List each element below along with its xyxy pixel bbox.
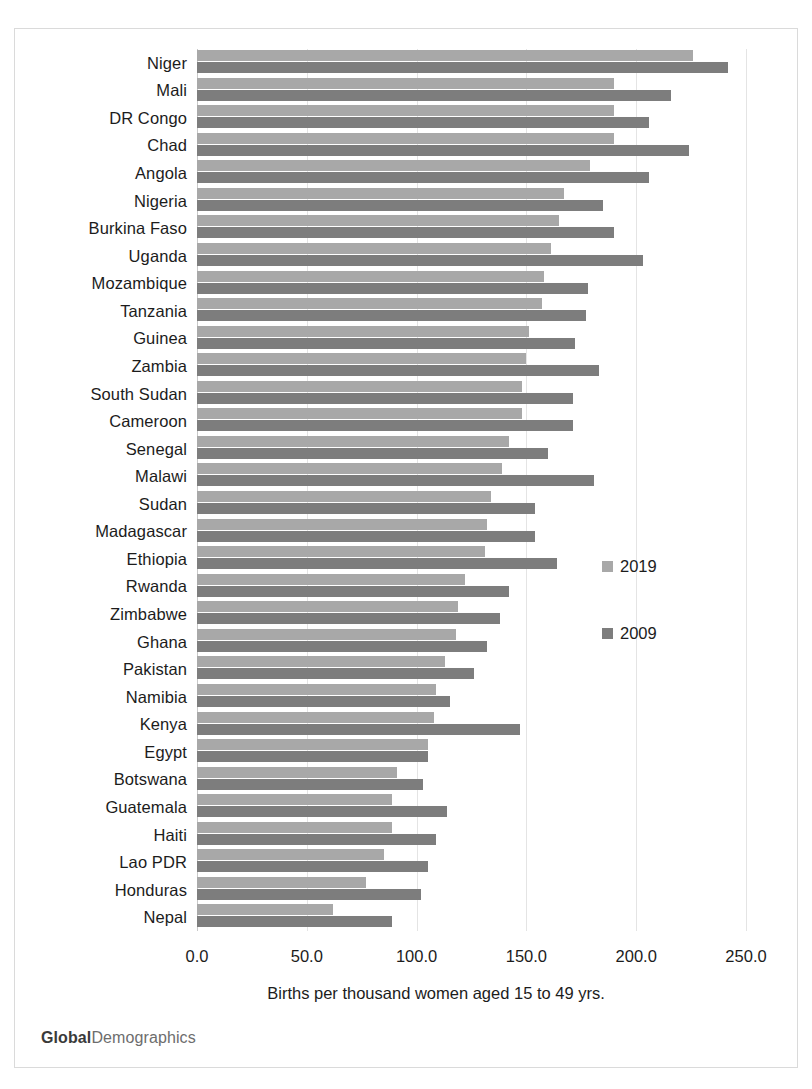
bar-2019 bbox=[197, 105, 614, 116]
brand-light-text: Demographics bbox=[91, 1029, 195, 1046]
bar-row: DR Congo bbox=[197, 104, 746, 132]
category-label: Botswana bbox=[114, 770, 187, 789]
category-label: Zambia bbox=[131, 356, 187, 375]
category-label: Egypt bbox=[144, 742, 187, 761]
bar-2009 bbox=[197, 558, 557, 569]
x-tick-label: 100.0 bbox=[396, 947, 437, 966]
bar-row: Tanzania bbox=[197, 297, 746, 325]
bar-2009 bbox=[197, 889, 421, 900]
brand-watermark: GlobalDemographics bbox=[41, 1029, 196, 1047]
bar-row: Lao PDR bbox=[197, 848, 746, 876]
bar-row: Zambia bbox=[197, 352, 746, 380]
bar-2019 bbox=[197, 243, 551, 254]
bar-2019 bbox=[197, 271, 544, 282]
chart-legend: 2019 2009 bbox=[602, 556, 732, 690]
bar-2009 bbox=[197, 62, 728, 73]
category-label: Ethiopia bbox=[127, 549, 187, 568]
bar-row: Uganda bbox=[197, 242, 746, 270]
bar-2019 bbox=[197, 298, 542, 309]
legend-label-2009: 2009 bbox=[620, 624, 657, 643]
bar-2009 bbox=[197, 172, 649, 183]
category-label: Sudan bbox=[139, 494, 187, 513]
bar-row: Burkina Faso bbox=[197, 214, 746, 242]
bar-2019 bbox=[197, 491, 491, 502]
bar-2009 bbox=[197, 283, 588, 294]
category-label: Niger bbox=[147, 53, 187, 72]
category-label: Chad bbox=[147, 136, 187, 155]
category-label: Pakistan bbox=[123, 660, 187, 679]
bar-2009 bbox=[197, 724, 520, 735]
bar-2019 bbox=[197, 188, 564, 199]
category-label: Uganda bbox=[129, 246, 187, 265]
x-tick-label: 150.0 bbox=[506, 947, 547, 966]
bar-2009 bbox=[197, 641, 487, 652]
category-label: Senegal bbox=[126, 439, 187, 458]
category-label: Malawi bbox=[135, 467, 187, 486]
bar-2009 bbox=[197, 861, 428, 872]
bar-2019 bbox=[197, 684, 436, 695]
plot-area: NigerMaliDR CongoChadAngolaNigeriaBurkin… bbox=[197, 49, 746, 931]
bar-2009 bbox=[197, 503, 535, 514]
bar-2019 bbox=[197, 353, 526, 364]
bar-2009 bbox=[197, 834, 436, 845]
bar-2009 bbox=[197, 200, 603, 211]
bar-2009 bbox=[197, 117, 649, 128]
bar-2019 bbox=[197, 574, 465, 585]
legend-swatch-2009 bbox=[602, 628, 613, 639]
bar-2019 bbox=[197, 381, 522, 392]
category-label: Nigeria bbox=[134, 191, 187, 210]
bar-2019 bbox=[197, 794, 392, 805]
category-label: Mozambique bbox=[92, 274, 187, 293]
legend-entry-2009: 2009 bbox=[602, 623, 732, 643]
category-label: Cameroon bbox=[109, 412, 187, 431]
bar-2009 bbox=[197, 255, 643, 266]
bar-2019 bbox=[197, 78, 614, 89]
bar-row: Sudan bbox=[197, 490, 746, 518]
bar-2019 bbox=[197, 629, 456, 640]
bar-row: Angola bbox=[197, 159, 746, 187]
category-label: Namibia bbox=[126, 687, 187, 706]
bar-2009 bbox=[197, 338, 575, 349]
bar-row: Senegal bbox=[197, 435, 746, 463]
category-label: Madagascar bbox=[95, 522, 187, 541]
bar-2009 bbox=[197, 586, 509, 597]
category-label: Kenya bbox=[140, 715, 187, 734]
bar-2019 bbox=[197, 133, 614, 144]
bar-row: Kenya bbox=[197, 711, 746, 739]
bar-2019 bbox=[197, 904, 333, 915]
bar-2019 bbox=[197, 519, 487, 530]
bar-2019 bbox=[197, 408, 522, 419]
bar-row: Mozambique bbox=[197, 270, 746, 298]
bar-row: Botswana bbox=[197, 766, 746, 794]
category-label: Tanzania bbox=[120, 301, 187, 320]
bar-row: Nepal bbox=[197, 903, 746, 931]
bar-2019 bbox=[197, 877, 366, 888]
legend-swatch-2019 bbox=[602, 561, 613, 572]
bar-row: Niger bbox=[197, 49, 746, 77]
bar-row: Mali bbox=[197, 77, 746, 105]
x-tick-label: 0.0 bbox=[186, 947, 209, 966]
bar-2009 bbox=[197, 448, 548, 459]
bar-2009 bbox=[197, 90, 671, 101]
category-label: Ghana bbox=[137, 632, 187, 651]
bar-row: Malawi bbox=[197, 462, 746, 490]
bar-2009 bbox=[197, 475, 594, 486]
category-label: DR Congo bbox=[109, 108, 187, 127]
bar-2009 bbox=[197, 696, 450, 707]
bar-row: Chad bbox=[197, 132, 746, 160]
bar-2009 bbox=[197, 310, 586, 321]
bar-2019 bbox=[197, 463, 502, 474]
category-label: Guatemala bbox=[105, 797, 187, 816]
category-label: Nepal bbox=[143, 908, 187, 927]
bar-2019 bbox=[197, 160, 590, 171]
bar-2019 bbox=[197, 215, 559, 226]
category-label: Mali bbox=[156, 81, 187, 100]
bar-2009 bbox=[197, 668, 474, 679]
category-label: Guinea bbox=[133, 329, 187, 348]
bar-2009 bbox=[197, 779, 423, 790]
bar-2009 bbox=[197, 145, 689, 156]
x-tick-label: 50.0 bbox=[291, 947, 323, 966]
bar-row: Nigeria bbox=[197, 187, 746, 215]
bar-2009 bbox=[197, 916, 392, 927]
bar-row: Guinea bbox=[197, 325, 746, 353]
